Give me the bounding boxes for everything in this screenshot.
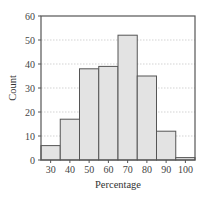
x-tick-label: 40 bbox=[65, 164, 75, 175]
histogram-chart: 0102030405060 30405060708090100 Percenta… bbox=[0, 0, 209, 199]
bar-80 bbox=[137, 76, 156, 160]
y-axis-ticks: 0102030405060 bbox=[25, 11, 41, 166]
y-tick-label: 40 bbox=[25, 59, 35, 70]
x-tick-label: 30 bbox=[46, 164, 56, 175]
x-tick-label: 50 bbox=[84, 164, 94, 175]
y-tick-label: 60 bbox=[25, 11, 35, 22]
x-tick-label: 60 bbox=[103, 164, 113, 175]
y-tick-label: 20 bbox=[25, 107, 35, 118]
x-tick-label: 70 bbox=[123, 164, 133, 175]
y-tick-label: 0 bbox=[30, 155, 35, 166]
x-axis-ticks: 30405060708090100 bbox=[46, 160, 193, 175]
bars bbox=[41, 35, 195, 160]
x-tick-label: 100 bbox=[178, 164, 193, 175]
y-axis-title: Count bbox=[7, 75, 18, 101]
x-tick-label: 80 bbox=[142, 164, 152, 175]
bar-40 bbox=[60, 119, 79, 160]
x-axis-title: Percentage bbox=[95, 179, 141, 190]
bar-70 bbox=[118, 35, 137, 160]
y-tick-label: 30 bbox=[25, 83, 35, 94]
bar-50 bbox=[80, 69, 99, 160]
y-tick-label: 10 bbox=[25, 131, 35, 142]
bar-60 bbox=[99, 66, 118, 160]
y-tick-label: 50 bbox=[25, 35, 35, 46]
x-tick-label: 90 bbox=[161, 164, 171, 175]
bar-90 bbox=[157, 131, 176, 160]
bar-30 bbox=[41, 146, 60, 160]
